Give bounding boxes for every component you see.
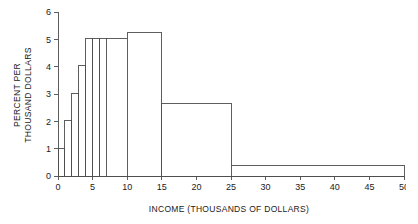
y-axis-ticks: 0123456 bbox=[46, 8, 58, 181]
x-tick-label: 5 bbox=[90, 182, 95, 192]
histogram-bar bbox=[162, 103, 231, 176]
x-tick-label: 30 bbox=[261, 182, 271, 192]
histogram-bar bbox=[127, 33, 162, 177]
y-tick-label: 2 bbox=[46, 117, 51, 127]
x-tick-label: 15 bbox=[157, 182, 167, 192]
x-tick-label: 50 bbox=[399, 182, 406, 192]
plot-area: 05101520253035404550 0123456 bbox=[46, 8, 406, 188]
histogram-bar bbox=[58, 149, 65, 176]
y-axis-title-line-2: THOUSAND DOLLARS bbox=[23, 47, 34, 142]
x-tick-label: 25 bbox=[226, 182, 236, 192]
histogram-bar bbox=[65, 121, 72, 176]
histogram-bar bbox=[100, 39, 107, 176]
histogram-bar bbox=[106, 39, 127, 176]
y-tick-label: 1 bbox=[46, 144, 51, 154]
histogram-bar bbox=[231, 166, 404, 176]
y-axis-title: PERCENT PER THOUSAND DOLLARS bbox=[0, 0, 46, 190]
x-tick-label: 40 bbox=[330, 182, 340, 192]
histogram-bar bbox=[93, 39, 100, 176]
x-axis-title: INCOME (THOUSANDS OF DOLLARS) bbox=[46, 204, 412, 214]
histogram-bar bbox=[86, 39, 93, 176]
bars-group bbox=[58, 33, 404, 177]
x-tick-label: 20 bbox=[191, 182, 201, 192]
y-tick-label: 4 bbox=[46, 62, 51, 72]
histogram-bar bbox=[72, 93, 79, 176]
histogram-svg: 05101520253035404550 0123456 bbox=[46, 8, 406, 198]
x-tick-label: 10 bbox=[122, 182, 132, 192]
y-tick-label: 0 bbox=[46, 171, 51, 181]
x-tick-label: 35 bbox=[295, 182, 305, 192]
histogram-bar bbox=[79, 66, 86, 176]
x-tick-label: 45 bbox=[364, 182, 374, 192]
y-tick-label: 3 bbox=[46, 89, 51, 99]
x-axis-ticks: 05101520253035404550 bbox=[55, 176, 406, 192]
y-tick-label: 6 bbox=[46, 8, 51, 17]
histogram-figure: PERCENT PER THOUSAND DOLLARS 05101520253… bbox=[0, 0, 418, 224]
y-tick-label: 5 bbox=[46, 35, 51, 45]
y-axis-title-line-1: PERCENT PER bbox=[12, 47, 23, 142]
x-tick-label: 0 bbox=[55, 182, 60, 192]
